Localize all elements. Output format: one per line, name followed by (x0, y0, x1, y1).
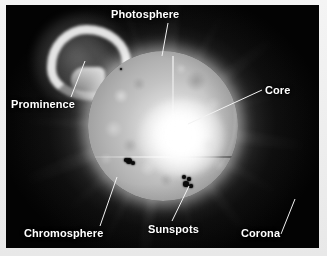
leader-chromosphere (100, 177, 117, 226)
label-prominence: Prominence (11, 98, 75, 110)
label-photosphere: Photosphere (111, 8, 179, 20)
leader-lines (6, 5, 319, 248)
leader-sunspots (172, 186, 189, 221)
leader-prominence (71, 61, 85, 97)
label-chromosphere: Chromosphere (24, 227, 103, 239)
sun-diagram-page: Photosphere Core Prominence Chromosphere… (0, 0, 327, 256)
label-corona: Corona (241, 227, 280, 239)
label-sunspots: Sunspots (148, 223, 199, 235)
leader-core (188, 90, 262, 124)
leader-photosphere (162, 23, 168, 56)
image-canvas: Photosphere Core Prominence Chromosphere… (6, 5, 319, 248)
annotation-layer: Photosphere Core Prominence Chromosphere… (6, 5, 319, 248)
label-core: Core (265, 84, 290, 96)
leader-corona (281, 199, 295, 234)
